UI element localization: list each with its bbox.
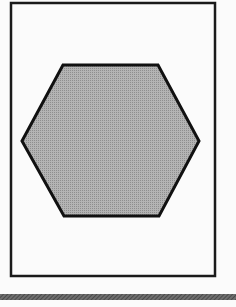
bottom-divider-bar	[0, 294, 236, 300]
figure-canvas: hexagon	[0, 0, 236, 307]
diagram-svg	[0, 0, 236, 307]
